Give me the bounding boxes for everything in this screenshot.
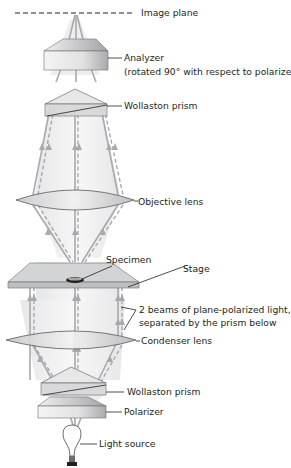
label-objective-lens: Objective lens bbox=[138, 196, 204, 207]
analyzer bbox=[44, 39, 108, 70]
label-beams-line1: 2 beams of plane-polarized light, bbox=[139, 304, 291, 315]
wollaston-prism-top bbox=[45, 89, 107, 116]
label-analyzer-note: (rotated 90° with respect to polarizer) bbox=[124, 66, 291, 77]
label-wollaston-prism-top: Wollaston prism bbox=[124, 100, 198, 111]
label-condenser-lens: Condenser lens bbox=[141, 335, 212, 346]
label-image-plane: Image plane bbox=[141, 7, 199, 18]
dic-microscope-diagram: Image plane Analyzer (rotated 90° with r… bbox=[0, 0, 291, 468]
label-beams-line2: separated by the prism below bbox=[139, 317, 277, 328]
label-wollaston-prism-bottom: Wollaston prism bbox=[127, 386, 201, 397]
label-polarizer: Polarizer bbox=[124, 406, 164, 417]
label-stage: Stage bbox=[183, 263, 210, 274]
label-light-source: Light source bbox=[99, 438, 156, 449]
label-analyzer: Analyzer bbox=[124, 52, 164, 63]
light-source-bulb-icon bbox=[63, 425, 81, 466]
labels: Image plane Analyzer (rotated 90° with r… bbox=[99, 7, 291, 449]
label-specimen: Specimen bbox=[106, 254, 152, 265]
